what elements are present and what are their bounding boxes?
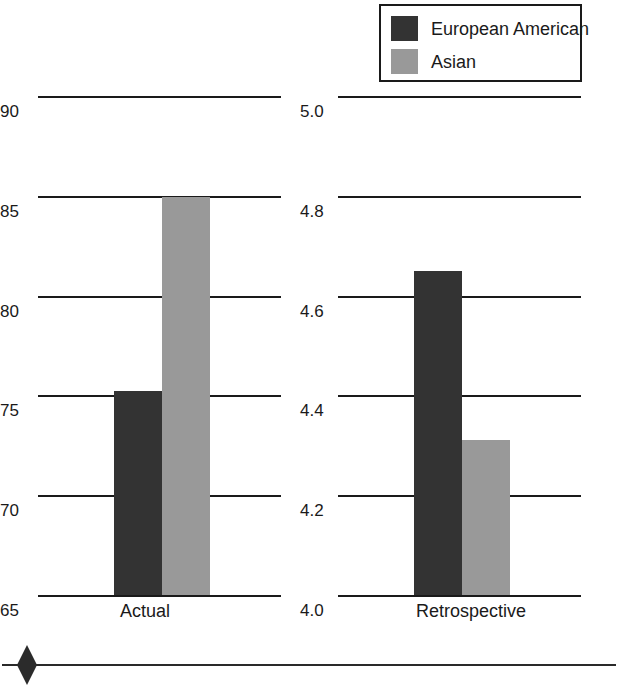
ytick-label: 75 [0, 402, 19, 419]
category-label-retrospective: Retrospective [416, 602, 526, 620]
ytick-label: 4.2 [300, 502, 324, 519]
ytick-label: 70 [0, 502, 19, 519]
gridline [38, 595, 281, 597]
actual-plot-area [38, 96, 281, 595]
bar-actual-european-american [114, 391, 162, 595]
ytick-label: 4.0 [300, 602, 324, 619]
ytick-label: 5.0 [300, 103, 324, 120]
ytick-label: 4.6 [300, 303, 324, 320]
category-label-actual: Actual [120, 602, 170, 620]
retrospective-bars [338, 96, 581, 595]
ytick-label: 85 [0, 203, 19, 220]
ytick-label: 4.8 [300, 203, 324, 220]
ytick-label: 90 [0, 103, 19, 120]
ytick-label: 80 [0, 303, 19, 320]
bar-actual-asian [162, 197, 210, 595]
ytick-label: 65 [0, 602, 19, 619]
actual-bars [38, 96, 281, 595]
retrospective-plot-area [338, 96, 581, 595]
ytick-label: 4.4 [300, 402, 324, 419]
bar-retrospective-european-american [414, 271, 462, 595]
gridline [338, 595, 581, 597]
bar-chart-figure: European American Asian 90 85 80 75 70 6… [0, 0, 618, 696]
retrospective-panel: 5.0 4.8 4.6 4.4 4.2 4.0 Retrospective [300, 0, 618, 696]
bottom-rule [2, 664, 616, 666]
bar-retrospective-asian [462, 440, 510, 595]
actual-panel: 90 85 80 75 70 65 Actual [0, 0, 300, 696]
